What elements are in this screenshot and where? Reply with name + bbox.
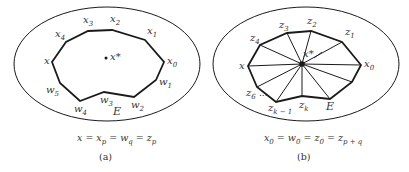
vertex-label-x4: x4 xyxy=(55,28,65,42)
vertex-label-w4: w4 xyxy=(74,103,87,117)
equation-a: x = xp = wq = zp xyxy=(77,132,157,146)
figure-canvas: x* x x4 x3 x2 x1 x0 w1 w2 w3 w4 xyxy=(0,0,409,172)
vertex-label-z4: z4 xyxy=(249,32,260,46)
region-label-b: E xyxy=(325,100,334,113)
vertex-label-zk-minus-1: zk − 1 xyxy=(267,102,292,116)
vertex-label-zk: zk xyxy=(298,99,309,113)
vertex-label-z1: z1 xyxy=(344,26,355,40)
ellipsis-dots: ... xyxy=(259,88,268,98)
path-polygon-a xyxy=(52,30,164,101)
vertex-label-x3: x3 xyxy=(83,14,94,28)
caption-a: (a) xyxy=(99,151,112,162)
vertex-label-w2: w2 xyxy=(131,99,145,113)
center-point-a xyxy=(105,57,108,60)
vertex-label-z3: z3 xyxy=(278,19,289,33)
center-label-leader xyxy=(314,52,322,58)
center-label-a: x* xyxy=(110,51,121,62)
vertex-label-x-a: x xyxy=(44,55,50,66)
panel-b: x* x z4 z3 z2 z1 x0 z6 ... zk − 1 xyxy=(213,7,399,162)
region-label-a: E xyxy=(112,105,121,118)
vertex-label-x2: x2 xyxy=(110,13,121,27)
center-point-b xyxy=(299,61,305,67)
vertex-label-z6: z6 xyxy=(245,87,256,101)
vertex-label-x1: x1 xyxy=(147,25,157,39)
caption-b: (b) xyxy=(297,151,311,162)
center-label-b: x* xyxy=(303,48,314,59)
vertex-label-x-b: x xyxy=(239,60,245,71)
vertex-label-w1: w1 xyxy=(159,76,172,90)
vertex-label-x0-b: x0 xyxy=(364,58,375,72)
vertex-label-z2: z2 xyxy=(306,15,317,29)
vertex-label-w5: w5 xyxy=(46,84,60,98)
panel-a: x* x x4 x3 x2 x1 x0 w1 w2 w3 w4 xyxy=(14,7,200,162)
vertex-label-w3: w3 xyxy=(100,94,114,108)
equation-b: x0 = w0 = z0 = zp + q xyxy=(264,132,363,146)
vertex-label-x0-a: x0 xyxy=(167,55,178,69)
